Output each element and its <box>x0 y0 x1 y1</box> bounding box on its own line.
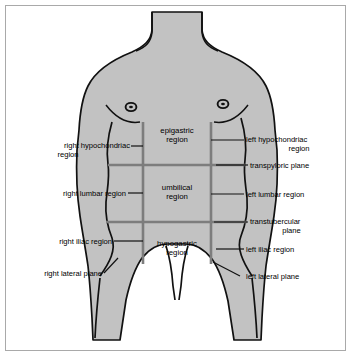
region-label-umbilical-line1: umbilical <box>147 183 207 192</box>
label-right-lateral-plane: right lateral plane <box>16 269 102 278</box>
label-left-lateral-plane-line1: left lateral plane <box>246 272 341 281</box>
label-right-hypochondriac-line2: region <box>14 150 130 159</box>
label-right-iliac-line1: right iliac region <box>22 237 112 246</box>
region-label-umbilical: umbilical region <box>147 183 207 202</box>
label-left-hypochondriac-line2: region <box>246 144 346 153</box>
label-right-hypochondriac-region: right hypochondriac region <box>14 141 130 159</box>
body-silhouette-path <box>77 12 278 340</box>
region-label-epigastric-line1: epigastric <box>147 126 207 135</box>
label-left-hypochondriac-region: left hypochondriac region <box>246 135 346 153</box>
label-right-iliac-region: right iliac region <box>22 237 112 246</box>
label-transtubercular-line2: plane <box>250 226 345 235</box>
label-transpyloric-plane-line1: transpyloric plane <box>250 161 350 170</box>
label-right-lumbar-region: right lumbar region <box>24 189 126 198</box>
region-label-umbilical-line2: region <box>147 192 207 201</box>
label-transtubercular-plane: transtubercular plane <box>250 217 345 235</box>
region-label-hypogastric: hypogastric region <box>145 239 209 258</box>
region-label-hypogastric-line1: hypogastric <box>145 239 209 248</box>
label-right-lumbar-line1: right lumbar region <box>24 189 126 198</box>
label-left-lateral-plane: left lateral plane <box>246 272 341 281</box>
region-label-epigastric-line2: region <box>147 135 207 144</box>
label-right-lateral-plane-line1: right lateral plane <box>16 269 102 278</box>
torso-illustration <box>0 0 353 358</box>
label-left-lumbar-line1: left lumbar region <box>246 190 346 199</box>
label-right-hypochondriac-line1: right hypochondriac <box>14 141 130 150</box>
region-label-epigastric: epigastric region <box>147 126 207 145</box>
label-left-iliac-region: left iliac region <box>246 245 341 254</box>
region-label-hypogastric-line2: region <box>145 248 209 257</box>
torso-body <box>77 12 278 340</box>
label-left-iliac-line1: left iliac region <box>246 245 341 254</box>
label-left-hypochondriac-line1: left hypochondriac <box>246 135 346 144</box>
label-left-lumbar-region: left lumbar region <box>246 190 346 199</box>
label-transpyloric-plane: transpyloric plane <box>250 161 350 170</box>
label-transtubercular-line1: transtubercular <box>250 217 345 226</box>
abdominal-regions-figure: epigastric region umbilical region hypog… <box>0 0 353 358</box>
